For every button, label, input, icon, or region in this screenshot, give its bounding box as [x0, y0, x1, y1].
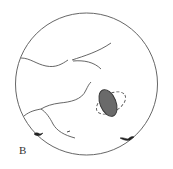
fundus-diagram: B	[0, 0, 173, 169]
vessel-upper-left	[21, 58, 68, 67]
vessel-upper-right-a	[72, 43, 111, 60]
vessel-upper-right-b	[73, 61, 101, 69]
vessel-lower-branch	[41, 109, 75, 138]
vessel-lower-main	[24, 82, 91, 116]
panel-label: B	[19, 145, 26, 156]
pigment-spot-left	[34, 133, 43, 136]
pigment-spot-small	[67, 131, 70, 132]
pigment-spot-right	[120, 137, 134, 141]
